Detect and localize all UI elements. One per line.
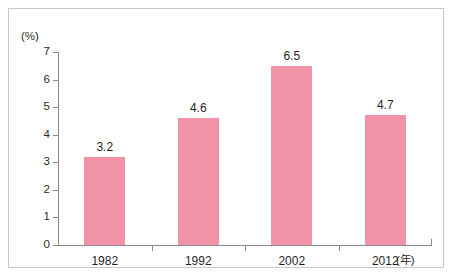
- y-axis-tick: [53, 245, 58, 246]
- y-axis-unit-label: (%): [21, 31, 39, 43]
- x-axis-category-label: 2002: [278, 255, 305, 267]
- plot-area: 01234567 3.24.66.54.7 (年) 19821992200220…: [58, 29, 432, 245]
- y-axis-tick-label: 3: [28, 157, 50, 169]
- bar-value-label: 6.5: [283, 50, 300, 62]
- bar-1992[interactable]: [178, 118, 219, 245]
- x-axis-end-tick: [431, 239, 432, 246]
- y-axis-line: [58, 52, 59, 245]
- chart-frame: (%) 01234567 3.24.66.54.7 (年) 1982199220…: [8, 8, 444, 268]
- y-axis-tick-label: 2: [28, 184, 50, 196]
- x-axis-tick: [245, 246, 246, 251]
- x-axis-tick: [339, 246, 340, 251]
- bar-2002[interactable]: [271, 66, 312, 245]
- y-axis-tick-label: 4: [28, 129, 50, 141]
- bar-value-label: 4.7: [377, 99, 394, 111]
- bar-value-label: 3.2: [96, 141, 113, 153]
- bar-value-label: 4.6: [190, 102, 207, 114]
- y-axis-tick: [53, 217, 58, 218]
- y-axis-tick-label: 7: [28, 46, 50, 58]
- bar-1982[interactable]: [84, 157, 125, 245]
- y-axis-tick: [53, 190, 58, 191]
- x-axis-tick: [152, 246, 153, 251]
- y-axis-tick-label: 5: [28, 101, 50, 113]
- y-axis-tick: [53, 80, 58, 81]
- y-axis-tick: [53, 135, 58, 136]
- y-axis-tick: [53, 107, 58, 108]
- x-axis-category-label: 1992: [185, 255, 212, 267]
- bar-2012[interactable]: [365, 115, 406, 245]
- y-axis-tick: [53, 52, 58, 53]
- x-axis-category-label: 1982: [91, 255, 118, 267]
- y-axis-tick-label: 0: [28, 239, 50, 251]
- y-axis-tick-label: 1: [28, 212, 50, 224]
- x-axis-category-label: 2012: [372, 255, 399, 267]
- y-axis-tick: [53, 162, 58, 163]
- y-axis-tick-label: 6: [28, 74, 50, 86]
